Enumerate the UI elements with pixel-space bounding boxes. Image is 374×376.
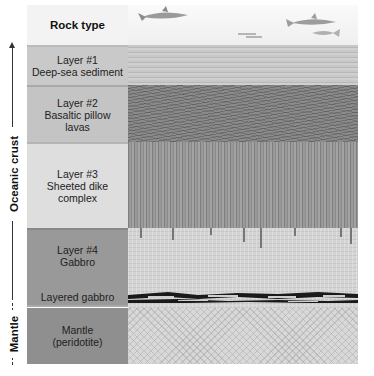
mantle-label: Mantle — [8, 310, 20, 358]
dike-icon — [260, 228, 262, 248]
dike-icon — [140, 228, 142, 238]
fish-icon — [128, 5, 358, 45]
mantle-title: Mantle — [62, 324, 94, 336]
layer-2-rock-cont: lavas — [65, 121, 90, 133]
layer-4-title: Layer #4 — [57, 244, 98, 256]
peridotite-pattern — [128, 308, 358, 364]
dike-icon — [210, 228, 212, 235]
dike-icon — [350, 228, 352, 244]
dike-icon — [243, 228, 245, 242]
oceanic-crust-label: Oceanic crust — [8, 127, 20, 221]
crust-arrow-icon — [9, 42, 15, 48]
layer-1-label: Layer #1 Deep-sea sediment — [27, 45, 128, 85]
layered-gabbro-label: Layered gabbro — [27, 288, 128, 307]
layer-3-title: Layer #3 — [57, 168, 98, 180]
dike-icon — [294, 228, 296, 236]
layer-1-title: Layer #1 — [57, 54, 98, 66]
layer-4-label: Layer #4 Gabbro — [27, 228, 128, 288]
ocean-water — [128, 5, 358, 45]
layer-4-rock: Gabbro — [60, 256, 95, 268]
layer-3-rock-cont: complex — [58, 192, 97, 204]
layer-3-rock: Sheeted dike — [47, 180, 108, 192]
dike-icon — [172, 228, 174, 240]
layer-2-title: Layer #2 — [57, 97, 98, 109]
layer-2-rock: Basaltic pillow — [45, 109, 111, 121]
layer-2-label: Layer #2 Basaltic pillow lavas — [27, 85, 128, 142]
layer-1-rock: Deep-sea sediment — [32, 66, 123, 78]
layered-gabbro-title: Layered gabbro — [41, 291, 115, 303]
deep-sea-sediment-pattern — [128, 45, 358, 85]
layered-gabbro-band-icon — [128, 290, 358, 304]
mantle-rock: (peridotite) — [52, 336, 102, 348]
rock-type-header: Rock type — [27, 5, 128, 45]
layer-3-label: Layer #3 Sheeted dike complex — [27, 142, 128, 228]
pillow-lava-pattern — [128, 85, 358, 142]
mantle-layer-label: Mantle (peridotite) — [27, 308, 128, 364]
dike-icon — [340, 228, 342, 237]
sheeted-dike-pattern — [128, 142, 358, 228]
